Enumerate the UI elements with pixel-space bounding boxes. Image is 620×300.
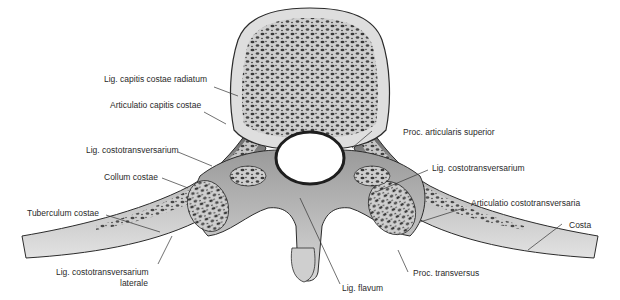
label-lig-costotransversarium-left: Lig. costotransversarium <box>86 145 179 155</box>
label-lig-costotransversarium-laterale-line2: laterale <box>120 278 148 288</box>
label-collum-costae: Collum costae <box>104 172 158 182</box>
label-tuberculum-costae: Tuberculum costae <box>27 208 99 218</box>
label-lig-flavum: Lig. flavum <box>342 283 383 293</box>
label-lig-costotransversarium-laterale-line1: Lig. costotransversarium <box>56 267 149 277</box>
label-proc-transversus: Proc. transversus <box>413 268 479 278</box>
vertebral-body <box>231 8 390 150</box>
anatomical-figure: Lig. capitis costae radiatum Articulatio… <box>0 0 620 300</box>
label-articulatio-capitis-costae: Articulatio capitis costae <box>110 100 201 110</box>
vertebral-foramen <box>276 132 344 184</box>
label-lig-costotransversarium-right: Lig. costotransversarium <box>432 163 525 173</box>
label-articulatio-costotransversaria: Articulatio costotransversaria <box>471 198 580 208</box>
label-lig-capitis-costae-radiatum: Lig. capitis costae radiatum <box>104 74 207 84</box>
label-proc-articularis-superior: Proc. articularis superior <box>403 127 495 137</box>
label-costa: Costa <box>569 220 591 230</box>
